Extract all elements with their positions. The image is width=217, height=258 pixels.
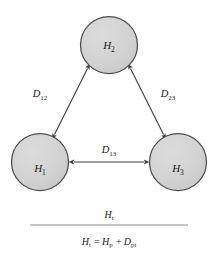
edge-d12-label: D12 <box>32 88 48 102</box>
edge-d23-group: D23 <box>131 69 176 135</box>
diagram-canvas: D12 D23 D13 H2 H1 H3 Ht <box>0 0 217 258</box>
formula-denominator: Ht = Hp + Dpt <box>81 236 137 248</box>
edge-d23-arrow <box>131 69 164 135</box>
edge-d13-label: D13 <box>101 144 117 158</box>
formula-numerator: Ht <box>103 209 113 221</box>
edge-d13-group: D13 <box>74 144 144 162</box>
node-h2: H2 <box>81 17 138 74</box>
edge-d23-label: D23 <box>160 88 176 102</box>
edge-d12-arrow <box>55 69 88 135</box>
node-h3: H3 <box>150 134 207 191</box>
figure-container: D12 D23 D13 H2 H1 H3 Ht <box>0 0 217 258</box>
node-h1: H1 <box>12 134 69 191</box>
edge-d12-group: D12 <box>32 69 88 135</box>
formula-block: Ht Ht = Hp + Dpt <box>30 209 188 248</box>
